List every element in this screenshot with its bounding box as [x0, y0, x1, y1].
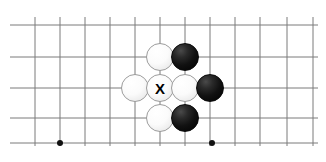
- white-stone-left[interactable]: [121, 74, 149, 102]
- black-stone-bottom-right[interactable]: [171, 104, 199, 132]
- stone-layer: X: [0, 0, 326, 162]
- white-stone-top[interactable]: [146, 43, 174, 71]
- black-stone-right[interactable]: [196, 74, 224, 102]
- white-stone-bottom[interactable]: [146, 104, 174, 132]
- white-stone-center-marked[interactable]: X: [146, 74, 174, 102]
- stone-mark-x: X: [147, 75, 173, 101]
- white-stone-right[interactable]: [171, 74, 199, 102]
- go-board-diagram: X: [0, 0, 326, 162]
- black-stone-top-right[interactable]: [171, 43, 199, 71]
